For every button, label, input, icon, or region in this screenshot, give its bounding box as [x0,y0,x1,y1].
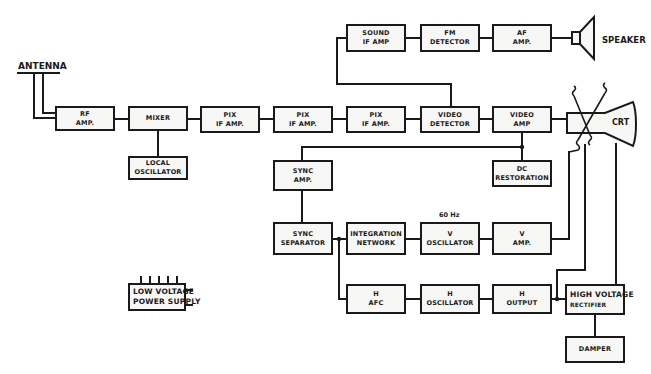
block-text: AF [517,29,527,38]
pix-if-amp-2-block: PIX IF AMP. [273,106,333,133]
block-text: VIDEO [510,111,534,120]
mixer-block: MIXER [128,106,188,131]
block-text: SOUND [362,29,389,38]
block-text: MIXER [146,114,170,123]
block-text: OSCILLATOR [426,299,473,308]
block-text: POWER SUPPLY [133,297,201,307]
block-text: RESTORATION [495,174,549,183]
af-amp-block: AF AMP. [492,24,552,52]
h-oscillator-block: H OSCILLATOR [420,284,480,314]
crt-label: CRT [612,118,629,127]
rf-amp-block: RF AMP. [55,106,115,131]
block-text: INTEGRATION [350,230,402,239]
local-oscillator-block: LOCAL OSCILLATOR [128,156,188,180]
dc-restoration-block: DC RESTORATION [492,160,552,187]
block-text: SYNC [293,167,313,176]
block-text: H [373,290,379,299]
block-text: V [447,230,452,239]
block-text: AMP. [513,239,531,248]
pix-if-amp-3-block: PIX IF AMP. [346,106,406,133]
antenna-label: ANTENNA [18,61,67,71]
high-voltage-rectifier-block: HIGH VOLTAGE RECTIFIER [565,284,625,315]
block-text: AMP. [513,38,531,47]
block-text: H [447,290,453,299]
block-text: OSCILLATOR [134,168,181,177]
sync-amp-block: SYNC AMP. [273,160,333,191]
speaker-label: SPEAKER [602,35,646,45]
video-amp-block: VIDEO AMP [492,106,552,133]
block-text: IF AMP. [289,120,317,129]
block-text: LOCAL [146,159,170,168]
block-text: IF AMP. [216,120,244,129]
low-voltage-power-supply-block: LOW VOLTAGE POWER SUPPLY [128,283,186,311]
block-text: RECTIFIER [570,300,606,310]
block-text: LOW VOLTAGE [133,287,194,297]
block-text: HIGH VOLTAGE [570,290,634,300]
pix-if-amp-1-block: PIX IF AMP. [200,106,260,133]
sound-if-amp-block: SOUND IF AMP [346,24,406,52]
block-text: FM [444,29,455,38]
block-text: NETWORK [357,239,395,248]
v-amp-block: V AMP. [492,222,552,255]
fm-detector-block: FM DETECTOR [420,24,480,52]
damper-block: DAMPER [565,336,625,363]
block-text: H [519,290,525,299]
block-text: PIX [297,111,310,120]
block-text: AMP [514,120,531,129]
block-text: RF [80,110,90,119]
h-afc-block: H AFC [346,284,406,314]
block-text: DETECTOR [430,120,470,129]
block-text: AMP. [294,176,312,185]
video-detector-block: VIDEO DETECTOR [420,106,480,133]
block-text: OUTPUT [507,299,538,308]
block-text: PIX [370,111,383,120]
block-text: OSCILLATOR [426,239,473,248]
block-text: DC [517,165,528,174]
block-text: VIDEO [438,111,462,120]
speaker-icon [572,17,594,59]
block-text: IF AMP. [362,120,390,129]
v-oscillator-block: V OSCILLATOR [420,222,480,255]
block-text: SEPARATOR [281,239,326,248]
h-output-block: H OUTPUT [492,284,552,314]
integration-network-block: INTEGRATION NETWORK [346,222,406,255]
block-text: AFC [369,299,384,308]
sync-separator-block: SYNC SEPARATOR [273,222,333,255]
block-text: DAMPER [579,345,611,354]
block-text: AMP. [76,119,94,128]
block-text: SYNC [293,230,313,239]
block-text: PIX [224,111,237,120]
60hz-label: 60 Hz [439,211,460,219]
block-text: IF AMP [363,38,390,47]
block-text: DETECTOR [430,38,470,47]
block-text: V [519,230,524,239]
